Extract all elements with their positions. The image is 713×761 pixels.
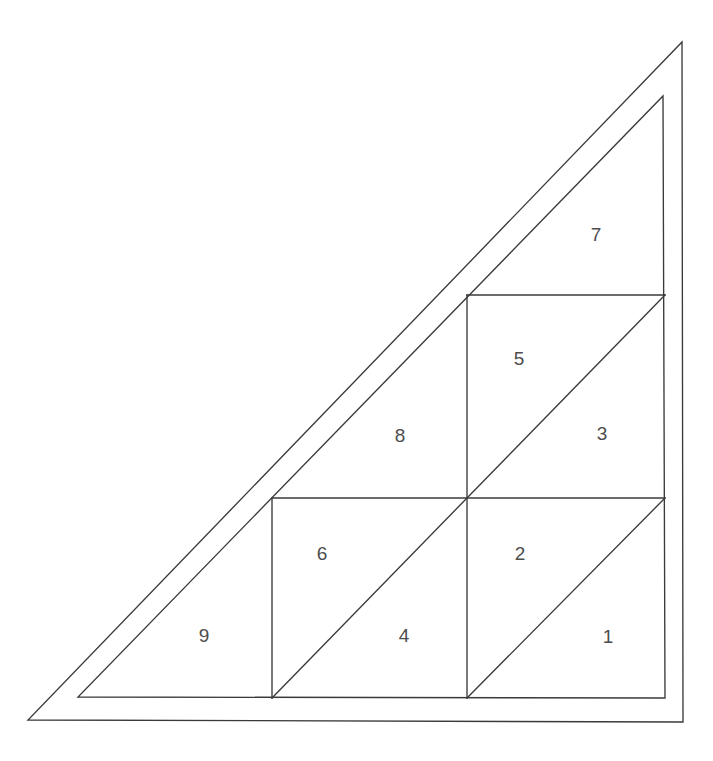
triangle-diagram: 1 2 3 4 5 6 7 8 9 bbox=[0, 0, 713, 761]
region-7-area[interactable] bbox=[467, 96, 665, 295]
region-label-9: 9 bbox=[199, 625, 210, 646]
region-label-3: 3 bbox=[597, 423, 608, 444]
region-label-5: 5 bbox=[514, 348, 525, 369]
region-label-6: 6 bbox=[317, 543, 328, 564]
region-label-2: 2 bbox=[515, 543, 526, 564]
region-label-4: 4 bbox=[399, 625, 410, 646]
region-label-8: 8 bbox=[395, 425, 406, 446]
region-label-7: 7 bbox=[591, 224, 602, 245]
region-9-area[interactable] bbox=[78, 498, 272, 698]
region-label-1: 1 bbox=[603, 626, 614, 647]
figure-canvas: 1 2 3 4 5 6 7 8 9 bbox=[0, 0, 713, 761]
region-hit-areas[interactable] bbox=[78, 96, 665, 698]
